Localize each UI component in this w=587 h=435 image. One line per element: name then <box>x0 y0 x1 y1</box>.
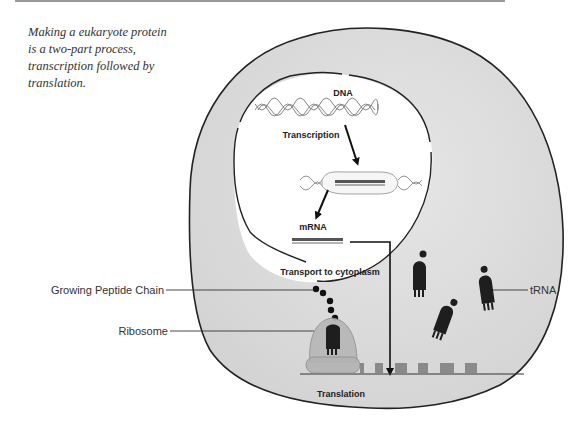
transcription-label: Transcription <box>282 130 339 140</box>
growing-peptide-chain-label: Growing Peptide Chain <box>51 284 164 296</box>
trna-label: tRNA <box>530 284 557 296</box>
ribosome-label: Ribosome <box>118 325 168 337</box>
transport-label: Transport to cytoplasm <box>280 267 380 277</box>
dna-label: DNA <box>333 88 353 98</box>
mrna-label: mRNA <box>299 222 327 232</box>
translation-label: Translation <box>317 389 365 399</box>
protein-synthesis-diagram: DNA Transcription mRNA Transport to cyto… <box>0 0 587 435</box>
